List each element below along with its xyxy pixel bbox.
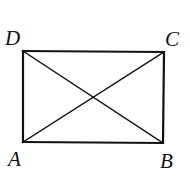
vertex-label-d: D bbox=[4, 26, 20, 50]
side-bc bbox=[163, 52, 164, 143]
rectangle-diagram: D C A B bbox=[0, 0, 190, 173]
vertex-label-a: A bbox=[6, 147, 21, 171]
side-cd bbox=[23, 51, 164, 52]
vertex-label-c: C bbox=[165, 27, 180, 51]
side-ab bbox=[23, 142, 163, 143]
vertex-label-b: B bbox=[160, 149, 173, 173]
